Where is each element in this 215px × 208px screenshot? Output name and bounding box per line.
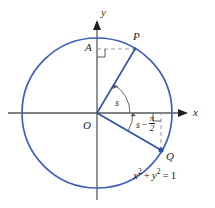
circle-equation-label: x2+y2=1	[133, 168, 176, 181]
right-angle-marker-A	[97, 49, 105, 57]
point-marker-Q	[158, 147, 163, 152]
y-axis-label: y	[101, 7, 106, 18]
equation-x-exponent: 2	[138, 167, 142, 176]
point-marker-P	[133, 47, 136, 50]
angle-s-term: s	[136, 119, 140, 130]
angle-label-s-minus-half-pi: s−π2	[136, 114, 155, 134]
point-label-P: P	[133, 31, 140, 42]
fraction-denominator: 2	[149, 124, 156, 133]
y-axis-arrowhead	[93, 20, 101, 30]
x-axis-arrowhead	[178, 109, 188, 117]
angle-label-s: s	[115, 98, 119, 108]
origin-label: O	[83, 120, 91, 131]
equation-rhs: 1	[171, 169, 177, 181]
angle-minus-operator: −	[141, 119, 148, 130]
unit-circle-figure: y x O A P Q s s−π2 x2+y2=1	[0, 0, 215, 208]
equation-equals: =	[162, 169, 168, 181]
figure-canvas	[0, 0, 215, 208]
x-axis-label: x	[193, 107, 198, 118]
equation-y-exponent: 2	[157, 167, 161, 176]
pi-over-two-fraction: π2	[149, 114, 156, 134]
equation-plus: +	[144, 169, 150, 181]
point-label-A: A	[85, 42, 92, 53]
point-label-Q: Q	[166, 151, 174, 162]
